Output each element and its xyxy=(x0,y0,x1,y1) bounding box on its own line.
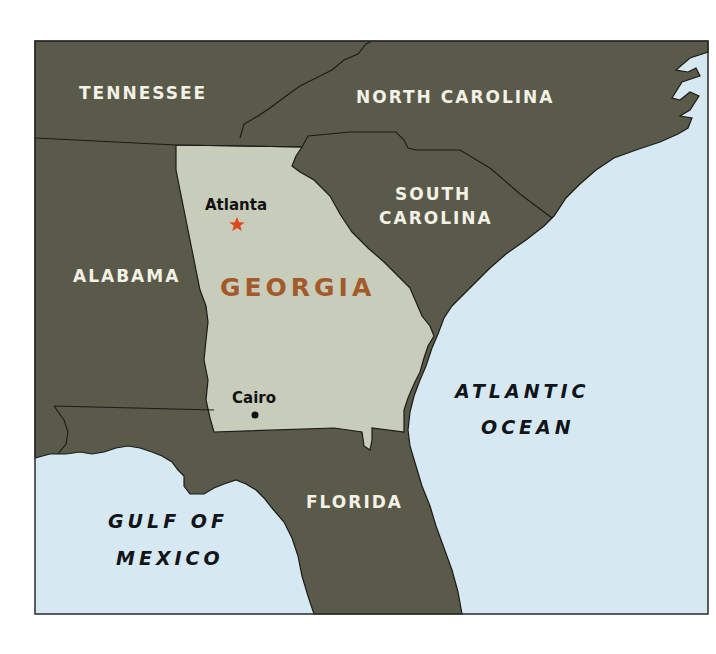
state-label-north-carolina: NORTH CAROLINA xyxy=(356,87,554,107)
water-label-gulf-line1: GULF OF xyxy=(108,510,228,532)
state-label-south-carolina-line1: SOUTH xyxy=(395,184,471,204)
water-label-atlantic-line1: ATLANTIC xyxy=(453,380,590,402)
state-label-alabama: ALABAMA xyxy=(73,266,180,286)
city-label-atlanta: Atlanta xyxy=(205,196,267,214)
state-label-georgia: GEORGIA xyxy=(220,273,375,302)
map: TENNESSEE NORTH CAROLINA SOUTH CAROLINA … xyxy=(0,0,716,654)
dot-icon xyxy=(252,412,259,419)
water-label-atlantic-line2: OCEAN xyxy=(481,416,575,438)
water-label-gulf-line2: MEXICO xyxy=(116,547,224,569)
city-label-cairo: Cairo xyxy=(232,389,276,407)
state-label-florida: FLORIDA xyxy=(306,492,403,512)
state-label-south-carolina-line2: CAROLINA xyxy=(379,208,493,228)
state-label-tennessee: TENNESSEE xyxy=(79,83,207,103)
